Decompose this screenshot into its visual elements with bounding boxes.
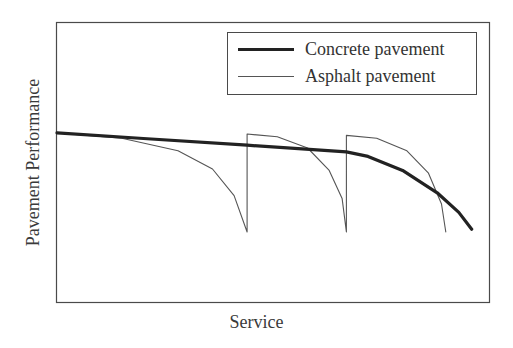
y-axis-label: Pavement Performance: [23, 78, 44, 248]
asphalt-series-line: [57, 133, 446, 232]
legend: Concrete pavement Asphalt pavement: [227, 32, 477, 95]
series-layer: [57, 133, 472, 232]
concrete-series-line: [57, 133, 472, 229]
x-axis-label: Service: [0, 312, 513, 333]
legend-item-asphalt: Asphalt pavement: [238, 66, 435, 87]
legend-label: Asphalt pavement: [305, 66, 435, 87]
legend-label: Concrete pavement: [305, 39, 444, 60]
thick-line-swatch-icon: [238, 48, 294, 51]
legend-item-concrete: Concrete pavement: [238, 39, 444, 60]
thin-line-swatch-icon: [238, 76, 294, 77]
